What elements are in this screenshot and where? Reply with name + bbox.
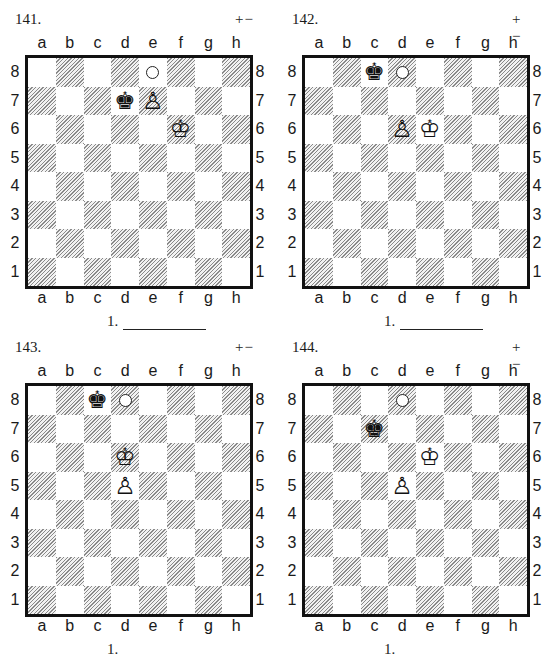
square-b7[interactable]: [333, 87, 361, 116]
square-h5[interactable]: [499, 144, 527, 173]
square-a8[interactable]: [305, 58, 333, 87]
answer-field[interactable]: 1.: [107, 641, 118, 658]
square-g7[interactable]: [472, 415, 500, 444]
square-e1[interactable]: [416, 258, 444, 287]
square-a3[interactable]: [305, 529, 333, 558]
square-e6[interactable]: [139, 443, 167, 472]
square-e5[interactable]: [416, 144, 444, 173]
square-a2[interactable]: [305, 229, 333, 258]
square-d3[interactable]: [111, 529, 139, 558]
square-h8[interactable]: [222, 386, 250, 415]
square-e8[interactable]: [416, 58, 444, 87]
square-g5[interactable]: [472, 144, 500, 173]
square-f4[interactable]: [444, 172, 472, 201]
square-c1[interactable]: [361, 258, 389, 287]
square-f3[interactable]: [444, 529, 472, 558]
square-g2[interactable]: [472, 229, 500, 258]
square-g6[interactable]: [195, 443, 223, 472]
square-d3[interactable]: [388, 201, 416, 230]
square-g6[interactable]: [472, 443, 500, 472]
square-e8[interactable]: [416, 386, 444, 415]
square-e5[interactable]: [416, 472, 444, 501]
white-pawn-icon[interactable]: ♙: [114, 474, 136, 498]
square-a3[interactable]: [28, 529, 56, 558]
square-c5[interactable]: [84, 472, 112, 501]
square-a7[interactable]: [28, 415, 56, 444]
square-c4[interactable]: [361, 500, 389, 529]
square-c2[interactable]: [361, 229, 389, 258]
square-e3[interactable]: [416, 529, 444, 558]
square-d6[interactable]: ♙: [388, 115, 416, 144]
square-c3[interactable]: [361, 529, 389, 558]
square-d3[interactable]: [388, 529, 416, 558]
white-king-icon[interactable]: ♔: [419, 117, 441, 141]
square-a7[interactable]: [305, 87, 333, 116]
square-f5[interactable]: [444, 472, 472, 501]
square-d7[interactable]: [388, 87, 416, 116]
square-e7[interactable]: [416, 87, 444, 116]
square-a2[interactable]: [28, 557, 56, 586]
square-a8[interactable]: [305, 386, 333, 415]
square-b2[interactable]: [333, 229, 361, 258]
square-e4[interactable]: [416, 172, 444, 201]
square-e3[interactable]: [139, 529, 167, 558]
square-g3[interactable]: [472, 529, 500, 558]
square-f1[interactable]: [167, 586, 195, 615]
square-c6[interactable]: [361, 115, 389, 144]
square-h2[interactable]: [222, 557, 250, 586]
square-h3[interactable]: [222, 529, 250, 558]
square-f6[interactable]: [444, 115, 472, 144]
square-e2[interactable]: [416, 229, 444, 258]
square-g1[interactable]: [472, 586, 500, 615]
black-king-icon[interactable]: ♚: [87, 388, 109, 412]
square-g2[interactable]: [195, 557, 223, 586]
square-f7[interactable]: [444, 415, 472, 444]
square-e1[interactable]: [416, 586, 444, 615]
square-h2[interactable]: [499, 229, 527, 258]
square-d4[interactable]: [388, 500, 416, 529]
square-e7[interactable]: [139, 415, 167, 444]
square-c1[interactable]: [84, 586, 112, 615]
square-f8[interactable]: [444, 58, 472, 87]
square-b1[interactable]: [56, 586, 84, 615]
square-g5[interactable]: [472, 472, 500, 501]
square-b4[interactable]: [333, 172, 361, 201]
square-h4[interactable]: [499, 500, 527, 529]
square-f5[interactable]: [167, 472, 195, 501]
square-h6[interactable]: [222, 443, 250, 472]
square-d6[interactable]: [388, 443, 416, 472]
square-a6[interactable]: [305, 443, 333, 472]
square-f6[interactable]: [444, 443, 472, 472]
white-king-icon[interactable]: ♔: [419, 445, 441, 469]
square-e5[interactable]: [139, 472, 167, 501]
square-a1[interactable]: [305, 258, 333, 287]
square-h1[interactable]: [222, 586, 250, 615]
square-g4[interactable]: [472, 500, 500, 529]
square-c7[interactable]: [84, 415, 112, 444]
square-e7[interactable]: [416, 415, 444, 444]
square-f6[interactable]: [167, 443, 195, 472]
square-f7[interactable]: [167, 415, 195, 444]
square-b2[interactable]: [56, 557, 84, 586]
square-h4[interactable]: [222, 500, 250, 529]
square-g4[interactable]: [195, 500, 223, 529]
square-d5[interactable]: ♙: [388, 472, 416, 501]
square-b1[interactable]: [333, 586, 361, 615]
square-e6[interactable]: ♔: [416, 115, 444, 144]
square-b2[interactable]: [333, 557, 361, 586]
square-g8[interactable]: [195, 386, 223, 415]
square-d6[interactable]: ♔: [111, 443, 139, 472]
square-h7[interactable]: [499, 87, 527, 116]
square-a7[interactable]: [305, 415, 333, 444]
square-c4[interactable]: [84, 500, 112, 529]
square-g1[interactable]: [195, 586, 223, 615]
square-c3[interactable]: [84, 529, 112, 558]
square-h2[interactable]: [499, 557, 527, 586]
square-e4[interactable]: [416, 500, 444, 529]
square-b5[interactable]: [56, 472, 84, 501]
square-b4[interactable]: [333, 500, 361, 529]
square-f3[interactable]: [167, 529, 195, 558]
square-a6[interactable]: [28, 443, 56, 472]
square-a5[interactable]: [28, 472, 56, 501]
square-f1[interactable]: [444, 586, 472, 615]
